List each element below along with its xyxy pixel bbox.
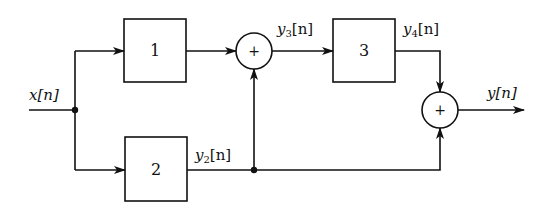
input-signal-label: x[n] xyxy=(29,86,59,104)
block-1-label: 1 xyxy=(124,19,186,82)
y2-signal-label: y2[n] xyxy=(195,146,231,165)
diagram-wires xyxy=(0,0,550,210)
block-2-label: 2 xyxy=(125,137,187,201)
output-signal-label: y[n] xyxy=(487,84,517,102)
block-diagram: + + 1 2 3 x[n] y2[n] y3[n] y4[n] y[n] xyxy=(0,0,550,210)
y3-signal-label: y3[n] xyxy=(277,20,313,39)
adder-2-symbol: + xyxy=(422,92,458,128)
block-3-label: 3 xyxy=(333,19,395,82)
y4-signal-label: y4[n] xyxy=(403,20,439,39)
adder-1-symbol: + xyxy=(236,33,272,69)
junction-dot-input xyxy=(72,107,78,113)
wire-y4 xyxy=(395,51,440,92)
junction-dot-y2 xyxy=(251,167,257,173)
